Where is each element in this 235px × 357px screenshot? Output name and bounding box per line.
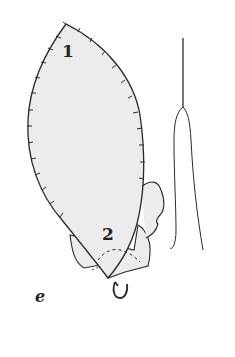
- botanical-drawing: 1 2 e: [0, 0, 235, 357]
- narrow-lemma: [170, 107, 203, 250]
- label-2: 2: [102, 224, 114, 244]
- main-glume: [28, 24, 144, 278]
- label-1: 1: [62, 41, 74, 61]
- right-flap: [141, 182, 164, 238]
- panel-label-e: e: [35, 287, 45, 306]
- base-hook: [114, 282, 128, 298]
